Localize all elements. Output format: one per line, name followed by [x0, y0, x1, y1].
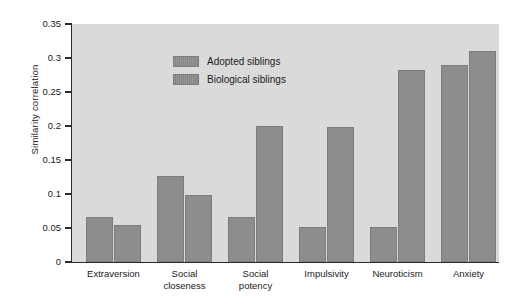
legend-item-biological-siblings: Biological siblings [173, 72, 286, 87]
bar-biological [398, 70, 425, 262]
bar-biological [114, 225, 141, 262]
bar-adopted [299, 227, 326, 262]
bar-adopted [228, 217, 255, 262]
x-axis-line [71, 262, 499, 263]
category-label: Anxiety [424, 268, 514, 280]
y-tick-mark [65, 23, 72, 24]
y-tick-mark [65, 193, 72, 194]
y-tick-label: 0.35 [43, 18, 62, 29]
y-tick-mark [65, 57, 72, 58]
y-tick-mark [65, 125, 72, 126]
bar-biological [327, 127, 354, 262]
bar-biological [185, 195, 212, 262]
y-tick-label: 0.25 [43, 86, 62, 97]
y-tick-label: 0.1 [48, 188, 61, 199]
y-axis-label: Similarity correlation [29, 30, 40, 190]
category-label-line: Anxiety [424, 268, 514, 280]
bar-biological [256, 126, 283, 262]
bar-biological [469, 51, 496, 262]
chart-figure: Similarity correlation Adopted siblings … [0, 0, 517, 308]
plot-area: Adopted siblings Biological siblings [72, 24, 499, 262]
y-tick-mark [65, 159, 72, 160]
y-tick-mark [65, 91, 72, 92]
legend-label: Biological siblings [207, 74, 286, 85]
y-tick-mark [65, 227, 72, 228]
y-tick-label: 0 [56, 256, 61, 267]
category-label-line: potency [211, 280, 301, 292]
y-tick-mark [65, 261, 72, 262]
legend-item-adopted-siblings: Adopted siblings [173, 54, 286, 69]
legend-swatch-icon [173, 56, 199, 67]
y-tick-label: 0.3 [48, 52, 61, 63]
y-tick-label: 0.05 [43, 222, 62, 233]
legend: Adopted siblings Biological siblings [173, 54, 286, 90]
y-tick-label: 0.15 [43, 154, 62, 165]
y-tick-label: 0.2 [48, 120, 61, 131]
legend-label: Adopted siblings [207, 56, 280, 67]
bar-adopted [370, 227, 397, 262]
legend-swatch-icon [173, 74, 199, 85]
bar-adopted [157, 176, 184, 262]
bar-adopted [441, 65, 468, 262]
bar-adopted [86, 217, 113, 262]
